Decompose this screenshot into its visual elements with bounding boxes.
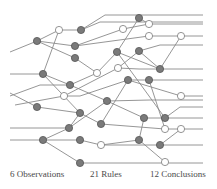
rule-node-filled xyxy=(77,26,84,33)
rule-node-open xyxy=(161,158,168,165)
edge-line xyxy=(149,80,165,129)
rule-node-filled xyxy=(145,76,152,83)
edge-line xyxy=(101,124,165,129)
rule-node-open xyxy=(177,32,184,39)
edge-line xyxy=(80,80,128,96)
edge-line xyxy=(107,101,144,118)
rule-node-open xyxy=(114,64,121,71)
rule-node-open xyxy=(55,26,62,33)
edge-line xyxy=(160,36,181,69)
edge-line xyxy=(101,140,139,145)
rule-node-filled xyxy=(39,70,46,77)
rule-node-open xyxy=(60,92,67,99)
rule-node-filled xyxy=(39,136,46,143)
edge-line xyxy=(43,74,70,85)
edge-line xyxy=(10,41,37,52)
edge-line xyxy=(43,128,69,140)
rule-node-open xyxy=(145,20,152,27)
rule-node-filled xyxy=(140,114,147,121)
rules-label: 21 Rules xyxy=(90,169,122,179)
observations-label: 6 Observations xyxy=(10,169,64,179)
rule-node-filled xyxy=(71,54,78,61)
rule-node-filled xyxy=(33,37,40,44)
edge-line xyxy=(43,140,80,163)
rule-node-filled xyxy=(156,141,163,148)
rule-node-open xyxy=(93,69,100,76)
rule-node-open xyxy=(119,25,126,32)
rule-node-filled xyxy=(156,65,163,72)
rule-node-filled xyxy=(76,136,83,143)
inference-network-diagram xyxy=(0,0,217,189)
edges xyxy=(10,15,203,163)
rule-node-filled xyxy=(76,159,83,166)
rule-node-open xyxy=(161,125,168,132)
conclusions-label: 12 Conclusions xyxy=(150,169,206,179)
edge-line xyxy=(70,73,97,85)
edge-line xyxy=(107,100,150,101)
rule-node-filled xyxy=(65,124,72,131)
rule-node-filled xyxy=(76,109,83,116)
edge-line xyxy=(81,15,105,30)
rule-node-open xyxy=(97,141,104,148)
rule-node-filled xyxy=(71,42,78,49)
edge-line xyxy=(128,80,181,96)
rule-node-open xyxy=(177,125,184,132)
rule-node-filled xyxy=(135,14,142,21)
edge-line xyxy=(139,51,160,69)
rule-node-filled xyxy=(135,47,142,54)
edge-line xyxy=(117,18,139,52)
rule-node-open xyxy=(177,92,184,99)
rule-node-filled xyxy=(113,48,120,55)
edge-line xyxy=(15,96,64,105)
edge-line xyxy=(10,85,40,96)
rule-node-filled xyxy=(66,81,73,88)
rule-node-filled xyxy=(135,136,142,143)
rule-node-filled xyxy=(97,120,104,127)
rule-node-open xyxy=(145,32,152,39)
rule-node-filled xyxy=(33,103,40,110)
rule-node-filled xyxy=(161,114,168,121)
edge-line xyxy=(10,93,37,107)
edge-line xyxy=(37,107,80,113)
rule-node-filled xyxy=(124,76,131,83)
rule-node-filled xyxy=(103,97,110,104)
edge-line xyxy=(75,36,149,46)
